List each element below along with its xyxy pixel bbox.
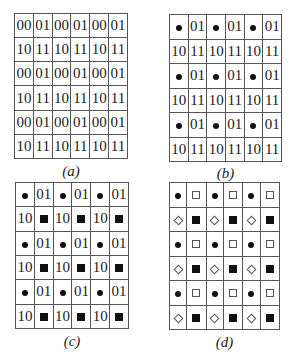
grid-cell: 10 bbox=[90, 134, 109, 158]
filled-square-icon bbox=[115, 313, 123, 321]
grid-cell bbox=[207, 113, 226, 138]
grid-cell: 01 bbox=[71, 62, 90, 86]
grid-cell bbox=[34, 304, 53, 328]
grid-cell bbox=[260, 232, 279, 257]
grid-cell bbox=[243, 232, 260, 257]
grid-cell: 00 bbox=[15, 110, 34, 134]
grid-row: 010101 bbox=[16, 231, 129, 255]
filled-square-icon bbox=[229, 265, 237, 273]
grid-cell bbox=[91, 231, 110, 255]
grid-cell bbox=[170, 256, 187, 281]
grid-cell bbox=[72, 255, 91, 279]
grid-cell bbox=[170, 232, 187, 257]
grid-row: 010101 bbox=[170, 113, 282, 138]
grid-cell bbox=[206, 207, 223, 232]
grid-cell bbox=[187, 281, 206, 306]
dot-symbol-icon bbox=[175, 242, 181, 248]
grid-cell: 01 bbox=[110, 280, 129, 304]
grid-cell: 10 bbox=[53, 304, 72, 328]
grid-cell: 11 bbox=[188, 88, 207, 113]
dot-symbol-icon bbox=[248, 291, 254, 297]
grid-cell: 11 bbox=[109, 86, 128, 110]
grid-cell: 01 bbox=[109, 14, 128, 38]
grid-cell bbox=[170, 305, 187, 330]
grid-cell bbox=[53, 231, 72, 255]
grid-cell bbox=[260, 305, 279, 330]
grid-row: 010101 bbox=[16, 280, 129, 304]
grid-cell bbox=[223, 256, 242, 281]
grid-cell: 11 bbox=[33, 86, 52, 110]
dot-symbol-icon bbox=[248, 242, 254, 248]
grid-row: 101110111011 bbox=[170, 88, 282, 113]
dot-symbol-icon bbox=[22, 290, 28, 296]
grid-cell: 10 bbox=[170, 137, 189, 162]
grid-cell: 00 bbox=[15, 14, 34, 38]
grid-cell bbox=[170, 64, 189, 89]
grid-cell: 10 bbox=[15, 134, 34, 158]
grid-row: 010101 bbox=[170, 15, 282, 40]
dot-symbol-icon bbox=[248, 193, 254, 199]
grid-row: 000100010001 bbox=[15, 62, 128, 86]
open-square-icon bbox=[266, 240, 274, 248]
grid-cell bbox=[223, 305, 242, 330]
grid-cell: 11 bbox=[263, 39, 282, 64]
grid-cell bbox=[243, 183, 260, 208]
grid-cell: 01 bbox=[188, 113, 207, 138]
grid-cell: 01 bbox=[225, 113, 244, 138]
grid-cell bbox=[244, 15, 263, 40]
grid-cell: 11 bbox=[109, 38, 128, 62]
grid-cell: 00 bbox=[90, 110, 109, 134]
grid-row: 101110111011 bbox=[15, 38, 128, 62]
grid-cell: 10 bbox=[170, 88, 189, 113]
open-square-icon bbox=[229, 240, 237, 248]
filled-square-icon bbox=[77, 264, 85, 272]
grid-cell bbox=[187, 183, 206, 208]
grid-cell bbox=[244, 64, 263, 89]
grid-cell bbox=[206, 256, 223, 281]
grid-cell: 00 bbox=[15, 62, 34, 86]
grid-cell: 01 bbox=[34, 231, 53, 255]
grid-cell: 01 bbox=[33, 62, 52, 86]
grid-row bbox=[170, 305, 280, 330]
grid-cell: 01 bbox=[110, 183, 129, 207]
grid-cell bbox=[243, 281, 260, 306]
grid-cell: 10 bbox=[52, 86, 71, 110]
open-square-icon bbox=[192, 191, 200, 199]
filled-square-icon bbox=[192, 314, 200, 322]
grid-cell: 11 bbox=[188, 137, 207, 162]
grid-cell: 10 bbox=[15, 38, 34, 62]
grid-row: 101010 bbox=[16, 255, 129, 279]
filled-square-icon bbox=[77, 215, 85, 223]
grid-cell bbox=[72, 304, 91, 328]
grid-cell bbox=[16, 231, 35, 255]
grid-cell: 01 bbox=[72, 280, 91, 304]
grid-cell bbox=[244, 113, 263, 138]
grid-cell: 00 bbox=[52, 14, 71, 38]
grid-cell: 11 bbox=[109, 134, 128, 158]
grid-cell: 10 bbox=[16, 304, 35, 328]
grid-cell bbox=[243, 207, 260, 232]
grid-cell: 01 bbox=[110, 231, 129, 255]
grid-cell: 01 bbox=[188, 64, 207, 89]
grid-cell bbox=[206, 305, 223, 330]
dot-symbol-icon bbox=[22, 242, 28, 248]
dot-symbol-icon bbox=[60, 242, 66, 248]
filled-square-icon bbox=[40, 313, 48, 321]
grid-cell bbox=[170, 207, 187, 232]
grid-cell bbox=[110, 304, 129, 328]
open-diamond-icon bbox=[246, 313, 256, 323]
grid-b: 0101011011101110110101011011101110110101… bbox=[169, 14, 282, 162]
grid-row: 101110111011 bbox=[170, 39, 282, 64]
dot-symbol-icon bbox=[97, 193, 103, 199]
dot-symbol-icon bbox=[60, 290, 66, 296]
filled-square-icon bbox=[192, 216, 200, 224]
grid-cell: 01 bbox=[225, 15, 244, 40]
filled-square-icon bbox=[115, 215, 123, 223]
grid-cell: 11 bbox=[225, 137, 244, 162]
grid-cell: 01 bbox=[225, 64, 244, 89]
grid-cell: 00 bbox=[52, 110, 71, 134]
grid-cell bbox=[206, 232, 223, 257]
grid-cell: 11 bbox=[71, 86, 90, 110]
open-diamond-icon bbox=[210, 215, 220, 225]
dot-symbol-icon bbox=[213, 123, 219, 129]
